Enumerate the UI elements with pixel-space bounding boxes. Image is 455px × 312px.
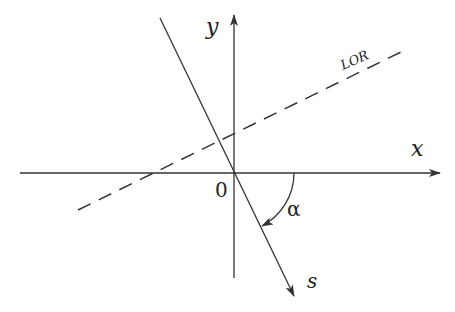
- alpha-label: α: [287, 197, 301, 221]
- lor-label: LOR: [337, 47, 371, 73]
- y-axis-label: y: [205, 14, 219, 39]
- diagram-canvas: y x 0 LOR s α: [0, 0, 455, 312]
- x-axis-label: x: [411, 136, 424, 161]
- origin-label: 0: [215, 178, 228, 202]
- s-axis-label: s: [307, 269, 317, 293]
- s-axis: [160, 18, 294, 296]
